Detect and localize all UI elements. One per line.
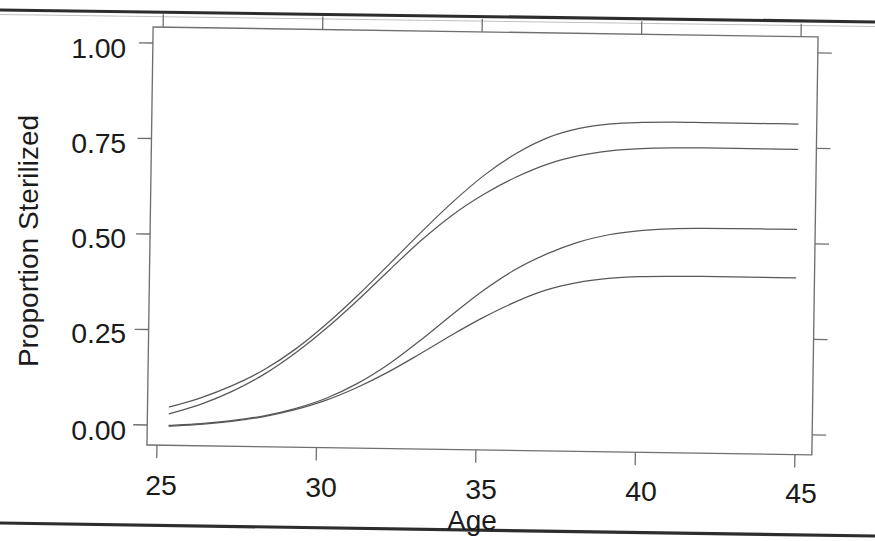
y-tick-label-100: 1.00 <box>71 32 126 64</box>
y-axis-title: Proportion Sterilized <box>13 115 44 367</box>
chart-line-1 <box>169 115 798 417</box>
y-tick-label-025: 0.25 <box>71 317 126 349</box>
x-axis-title: Age <box>447 505 497 536</box>
y-tick-labels: 1.00 0.75 0.50 0.25 0.00 <box>71 32 126 446</box>
x-tick-label-45: 45 <box>785 477 816 509</box>
y-tick-label-075: 0.75 <box>71 127 126 159</box>
y-tick-label-000: 0.00 <box>71 414 126 446</box>
y-tick-label-050: 0.50 <box>71 222 126 254</box>
plot-frame <box>147 27 818 455</box>
x-tick-label-30: 30 <box>305 471 336 503</box>
chart-line-2 <box>169 140 797 423</box>
chart-line-4 <box>169 269 796 436</box>
plot-area-group <box>133 14 833 468</box>
chart-line-3 <box>169 220 796 434</box>
scan-edge-bottom <box>0 523 875 536</box>
scan-artifacts <box>0 10 875 536</box>
y-axis-ticks-right <box>812 53 832 435</box>
x-tick-label-40: 40 <box>625 475 656 507</box>
x-tick-label-35: 35 <box>465 473 496 505</box>
x-axis-ticks <box>157 445 795 467</box>
x-tick-label-25: 25 <box>145 469 176 501</box>
y-axis-ticks <box>133 43 153 425</box>
x-tick-labels: 25 30 35 40 45 <box>145 469 816 509</box>
data-curves <box>169 115 798 436</box>
chart-figure: 1.00 0.75 0.50 0.25 0.00 25 30 35 40 45 … <box>0 0 875 541</box>
chart-svg: 1.00 0.75 0.50 0.25 0.00 25 30 35 40 45 … <box>0 0 875 541</box>
